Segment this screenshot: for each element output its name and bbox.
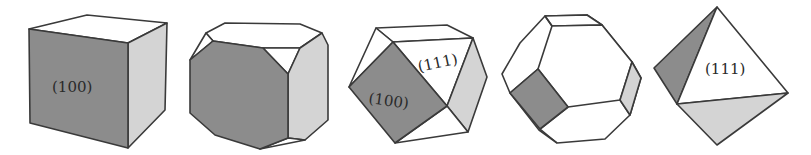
label-111-octa: (111) (705, 60, 745, 78)
shape-truncated-octahedron (502, 15, 641, 143)
shape-truncated-cube (190, 23, 328, 149)
shape-octahedron: (111) (654, 7, 788, 145)
shape-cube: (100) (29, 15, 167, 148)
cube-right-face (128, 23, 167, 148)
label-100-cube: (100) (52, 78, 92, 96)
trunc-octa-top-square (545, 15, 602, 26)
crystal-shapes-diagram: (100) (111) (100) (111) (0, 0, 811, 155)
shape-cuboctahedron: (111) (100) (349, 25, 487, 143)
